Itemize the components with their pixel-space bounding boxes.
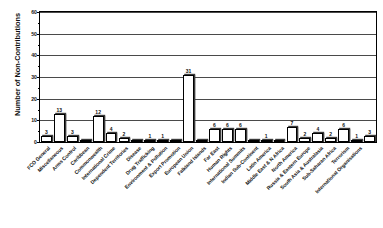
bar[interactable] — [93, 116, 104, 142]
y-tick-label: 0 — [34, 139, 37, 145]
bar-slot — [273, 12, 286, 142]
bar-value-label: 6 — [342, 122, 345, 128]
bar-slot: 6 — [221, 12, 234, 142]
bar[interactable] — [157, 140, 168, 142]
bar-value-label: 6 — [239, 122, 242, 128]
bar[interactable] — [131, 140, 142, 142]
bar-slot: 3 — [40, 12, 53, 142]
bar-value-label: 3 — [71, 129, 74, 135]
bar[interactable] — [41, 136, 52, 143]
bar-value-label: 1 — [355, 133, 358, 139]
bar[interactable] — [235, 129, 246, 142]
bar-value-label: 12 — [95, 109, 101, 115]
bar-slot — [130, 12, 143, 142]
bar[interactable] — [248, 140, 259, 142]
bar-value-label: 6 — [226, 122, 229, 128]
bar-slot: 1 — [143, 12, 156, 142]
y-tick-label: 30 — [31, 74, 37, 80]
bar[interactable] — [274, 140, 285, 142]
bar-value-label: 2 — [304, 131, 307, 137]
bar[interactable] — [170, 140, 181, 142]
bar-slot: 2 — [118, 12, 131, 142]
bar[interactable] — [351, 140, 362, 142]
bars-layer: 31331242113166617242613 — [40, 12, 376, 142]
bar-slot: 6 — [208, 12, 221, 142]
bar-slot: 4 — [105, 12, 118, 142]
bar-slot — [195, 12, 208, 142]
bar-value-label: 13 — [57, 107, 63, 113]
bar-slot: 2 — [298, 12, 311, 142]
y-axis-title: Number of Non-Contributions — [13, 0, 22, 130]
plot-area: 0102030405060 31331242113166617242613 — [39, 11, 377, 143]
bar-slot: 3 — [66, 12, 79, 142]
bar-slot: 2 — [324, 12, 337, 142]
bar-value-label: 1 — [265, 133, 268, 139]
bar[interactable] — [287, 127, 298, 142]
bar-slot: 6 — [337, 12, 350, 142]
bar-value-label: 2 — [329, 131, 332, 137]
bar-slot: 6 — [234, 12, 247, 142]
bar-value-label: 3 — [45, 129, 48, 135]
y-tick-label: 10 — [31, 117, 37, 123]
bar-value-label: 3 — [368, 129, 371, 135]
bar[interactable] — [222, 129, 233, 142]
bar-chart: Number of Non-Contributions 010203040506… — [0, 0, 383, 228]
bar[interactable] — [80, 140, 91, 142]
y-tick-label: 60 — [31, 9, 37, 15]
bar-slot: 4 — [311, 12, 324, 142]
bar-value-label: 6 — [213, 122, 216, 128]
bar[interactable] — [196, 140, 207, 142]
bar[interactable] — [144, 140, 155, 142]
bar[interactable] — [364, 136, 375, 143]
bar-slot: 1 — [350, 12, 363, 142]
bar-slot: 3 — [363, 12, 376, 142]
bar[interactable] — [54, 114, 65, 142]
bar[interactable] — [183, 75, 194, 142]
bar-value-label: 1 — [161, 133, 164, 139]
y-tick-label: 20 — [31, 96, 37, 102]
bar[interactable] — [299, 138, 310, 142]
bar-slot: 1 — [260, 12, 273, 142]
bar-slot — [169, 12, 182, 142]
bar-slot — [247, 12, 260, 142]
bar[interactable] — [209, 129, 220, 142]
bar-slot: 1 — [156, 12, 169, 142]
bar[interactable] — [261, 140, 272, 142]
bar[interactable] — [106, 133, 117, 142]
bar[interactable] — [67, 136, 78, 143]
bar[interactable] — [119, 138, 130, 142]
bar-slot: 7 — [286, 12, 299, 142]
y-tick-label: 50 — [31, 31, 37, 37]
bar-value-label: 4 — [316, 126, 319, 132]
bar-value-label: 7 — [291, 120, 294, 126]
bar-value-label: 4 — [110, 126, 113, 132]
bar-value-label: 1 — [148, 133, 151, 139]
bar-slot: 12 — [92, 12, 105, 142]
bar[interactable] — [312, 133, 323, 142]
bar-value-label: 2 — [123, 131, 126, 137]
bar[interactable] — [338, 129, 349, 142]
bar-slot: 31 — [182, 12, 195, 142]
bar-slot: 13 — [53, 12, 66, 142]
x-axis-labels: FCO GeneralMiscellaneousArms ControlCari… — [39, 143, 377, 228]
bar[interactable] — [325, 138, 336, 142]
y-tick-label: 40 — [31, 52, 37, 58]
bar-value-label: 31 — [186, 68, 192, 74]
bar-slot — [79, 12, 92, 142]
